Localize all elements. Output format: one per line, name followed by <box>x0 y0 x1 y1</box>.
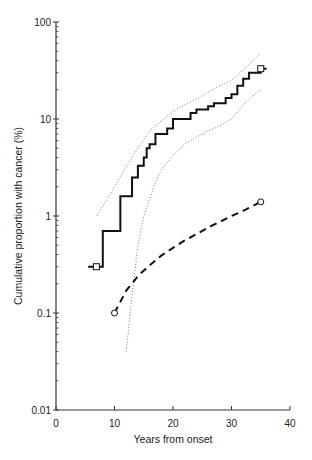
square-marker-icon <box>258 66 264 72</box>
confidence-band-line <box>97 53 261 216</box>
circle-marker-icon <box>258 199 264 205</box>
x-tick-label: 10 <box>109 418 121 429</box>
circle-marker-icon <box>112 310 118 316</box>
x-axis-label: Years from onset <box>134 433 213 445</box>
observed-step-line <box>88 69 266 267</box>
axes: 0102030400.010.1110100 <box>32 17 296 429</box>
y-tick-label: 1 <box>45 211 51 222</box>
x-tick-label: 30 <box>226 418 238 429</box>
y-tick-label: 0.1 <box>37 308 51 319</box>
x-tick-label: 20 <box>167 418 179 429</box>
x-tick-label: 0 <box>53 418 59 429</box>
expected-dashed-line <box>115 202 261 313</box>
plot-area <box>88 53 266 352</box>
y-axis-label: Cumulative proportion with cancer (%) <box>12 127 24 305</box>
y-tick-label: 0.01 <box>32 405 52 416</box>
chart: 0102030400.010.1110100 Years from onset … <box>0 0 312 460</box>
y-tick-label: 100 <box>34 17 51 28</box>
x-tick-label: 40 <box>284 418 296 429</box>
square-marker-icon <box>93 264 99 270</box>
confidence-band-line <box>126 90 261 352</box>
y-tick-label: 10 <box>40 114 52 125</box>
